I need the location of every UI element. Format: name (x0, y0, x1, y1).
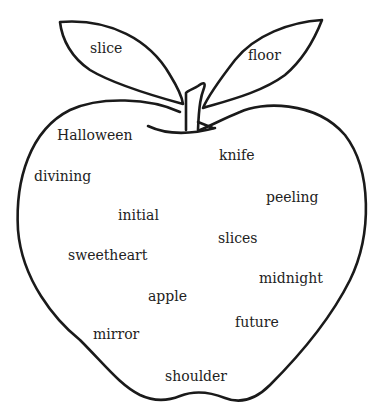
word-shoulder: shoulder (165, 369, 227, 383)
word-apple: apple (148, 289, 187, 303)
leaf-word-floor: floor (248, 48, 281, 62)
word-divining: divining (34, 169, 91, 183)
word-initial: initial (118, 208, 159, 222)
word-knife: knife (219, 148, 254, 162)
word-future: future (235, 315, 279, 329)
apple-outline-icon (0, 0, 381, 420)
apple-diagram: slice floor Halloween knife divining pee… (0, 0, 381, 420)
word-peeling: peeling (266, 190, 318, 204)
word-slices: slices (218, 231, 257, 245)
word-mirror: mirror (93, 327, 139, 341)
word-sweetheart: sweetheart (68, 248, 147, 262)
word-halloween: Halloween (57, 128, 133, 142)
leaf-word-slice: slice (90, 41, 122, 55)
word-midnight: midnight (259, 271, 323, 285)
